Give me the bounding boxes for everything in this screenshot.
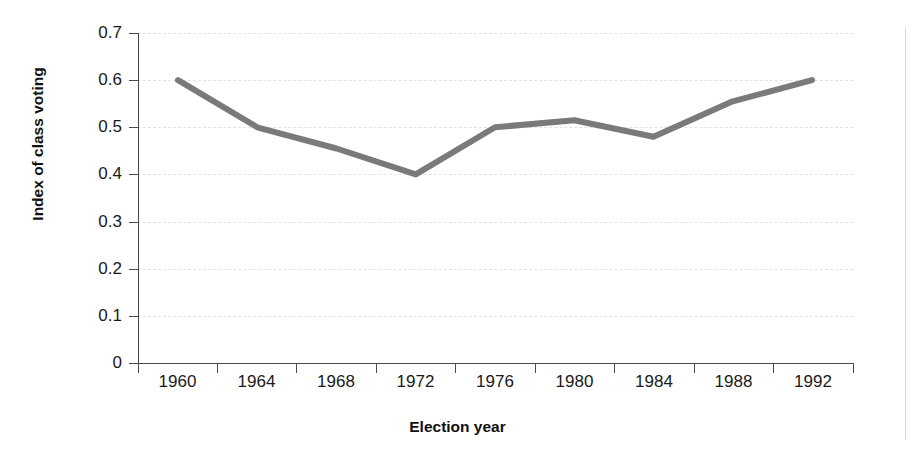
data-series-layer xyxy=(0,0,915,473)
series-line-index-of-class-voting xyxy=(178,80,812,174)
line-chart-figure: 0.7 0.6 0.5 0.4 0.3 0.2 0.1 0 1960 1964 … xyxy=(0,0,915,473)
